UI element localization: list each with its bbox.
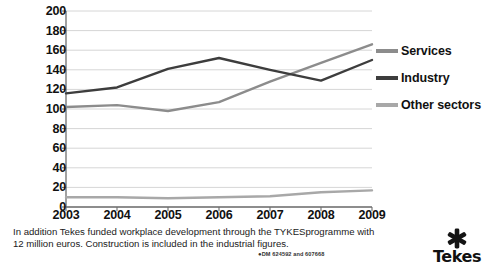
data-series-group	[66, 44, 372, 198]
caption-line-2: 12 million euros. Construction is includ…	[13, 238, 343, 250]
asterisk-star-icon	[424, 228, 490, 249]
legend-swatch-icon	[376, 103, 398, 107]
y-axis-tick-label: 100	[46, 102, 66, 116]
x-axis-tick-label: 2007	[256, 208, 283, 222]
chart-caption: In addition Tekes funded workplace devel…	[13, 226, 343, 251]
plot-area: 200180160140120100806040200 200320042005…	[0, 0, 400, 222]
y-axis-tick-label: 120	[46, 82, 66, 96]
tekes-logo-text: Tekes	[424, 248, 490, 266]
y-axis-tick-label: 60	[52, 141, 66, 155]
legend-item[interactable]: Other sectors	[376, 94, 502, 116]
x-axis-tick-label: 2006	[205, 208, 232, 222]
legend-item-label: Other sectors	[401, 98, 481, 112]
x-tick-marks	[62, 11, 372, 211]
legend-item[interactable]: Industry	[376, 67, 502, 89]
legend-swatch-icon	[376, 49, 398, 53]
legend-swatch-icon	[376, 76, 398, 80]
document-reference: ●DM 624592 and 607668	[258, 251, 324, 257]
legend-item[interactable]: Services	[376, 40, 502, 62]
y-axis-tick-label: 160	[46, 43, 66, 57]
x-axis-tick-label: 2004	[103, 208, 130, 222]
legend-item-label: Services	[401, 44, 452, 58]
chart-figure: 200180160140120100806040200 200320042005…	[0, 0, 502, 275]
y-axis-tick-label: 40	[52, 161, 66, 175]
series-line-industry	[66, 58, 372, 93]
x-axis-tick-label: 2008	[307, 208, 334, 222]
gridlines	[66, 11, 372, 207]
tekes-logo: Tekes	[424, 228, 490, 272]
x-axis-tick-labels: 2003200420052006200720082009	[0, 208, 400, 228]
y-axis-tick-label: 80	[52, 122, 66, 136]
y-axis-tick-labels: 200180160140120100806040200	[26, 11, 66, 207]
legend-item-label: Industry	[401, 71, 450, 85]
series-line-other-sectors	[66, 190, 372, 198]
y-axis-tick-label: 180	[46, 24, 66, 38]
document-reference-text: DM 624592 and 607668	[262, 251, 325, 257]
y-axis-tick-label: 200	[46, 4, 66, 18]
x-axis-tick-label: 2005	[154, 208, 181, 222]
chart-legend: ServicesIndustryOther sectors	[376, 40, 502, 121]
y-axis-tick-label: 20	[52, 180, 66, 194]
caption-line-1: In addition Tekes funded workplace devel…	[13, 226, 343, 238]
x-axis-tick-label: 2003	[52, 208, 79, 222]
x-axis-tick-label: 2009	[358, 208, 385, 222]
y-axis-tick-label: 140	[46, 63, 66, 77]
